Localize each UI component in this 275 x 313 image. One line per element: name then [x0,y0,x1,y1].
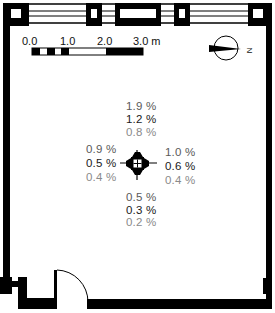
north-arrow-icon [209,36,241,60]
top-value-1: 1.9 % [126,100,156,112]
bottom-wall [87,299,272,309]
left-value-1: 0.9 % [86,143,116,155]
left-value-2: 0.5 % [86,157,116,169]
scale-label-0: 0.0 [22,36,37,47]
top-wall [3,3,272,26]
right-value-3: 0.4 % [165,174,195,186]
scale-bar [32,48,143,55]
top-value-3: 0.8 % [126,126,156,138]
bottom-value-2: 0.3 % [126,204,156,216]
scale-label-1: 1.0 [60,36,75,47]
bottom-value-1: 0.5 % [126,191,156,203]
right-value-1: 1.0 % [165,146,195,158]
sensor-icon [120,150,157,180]
right-value-2: 0.6 % [165,160,195,172]
bottom-value-3: 0.2 % [126,216,156,228]
right-wall [266,25,272,309]
scale-label-2: 2.0 [97,36,112,47]
left-wall [3,25,10,277]
top-value-2: 1.2 % [126,113,156,125]
scale-label-3: 3.0 m [133,36,161,47]
north-label: N [244,48,255,54]
left-value-3: 0.4 % [86,171,116,183]
